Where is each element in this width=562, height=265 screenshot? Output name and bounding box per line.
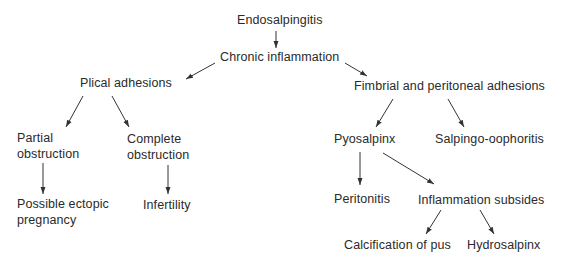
node-possible-ectopic-line1: Possible ectopic [17,196,109,212]
node-plical-adhesions: Plical adhesions [80,75,172,91]
node-chronic-inflammation: Chronic inflammation [220,49,339,65]
node-salpingo-oophoritis: Salpingo-oophoritis [435,131,544,147]
node-fimbrial-peritoneal-adhesions: Fimbrial and peritoneal adhesions [354,78,545,94]
node-inflammation-subsides: Inflammation subsides [418,192,544,208]
node-partial-obstruction-line1: Partial [17,130,53,146]
arrow-chronic-fimbrial [345,63,367,76]
node-peritonitis: Peritonitis [334,191,390,207]
node-complete-obstruction-line2: obstruction [127,147,189,163]
node-possible-ectopic-line2: pregnancy [17,212,76,228]
node-infertility: Infertility [143,197,191,213]
node-endosalpingitis: Endosalpingitis [237,12,323,28]
arrow-chronic-plical [186,63,215,79]
flowchart: Endosalpingitis Chronic inflammation Pli… [0,0,562,265]
arrow-subsides-hydrosalpinx [480,210,494,234]
node-hydrosalpinx: Hydrosalpinx [467,237,540,253]
arrow-plical-partial [66,96,83,127]
node-partial-obstruction-line2: obstruction [17,146,79,162]
arrow-plical-complete [112,96,129,127]
arrow-fimbrial-salpingo [448,99,464,127]
arrow-subsides-calcification [426,210,441,234]
arrow-pyosalpinx-subsides [383,153,434,184]
node-calcification-of-pus: Calcification of pus [344,237,451,253]
node-complete-obstruction-line1: Complete [127,131,181,147]
node-pyosalpinx: Pyosalpinx [334,131,395,147]
arrow-fimbrial-pyosalpinx [376,99,393,127]
